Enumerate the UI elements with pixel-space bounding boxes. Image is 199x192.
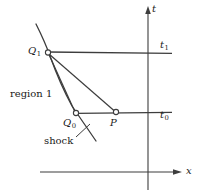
shock-characteristic-diagram: t x t1 t0 Q1 Q0 P region 1 shock <box>0 0 199 192</box>
t-axis-label-text: t <box>152 3 156 14</box>
shock-label-text: shock <box>44 135 73 146</box>
point-q0-label-text: Q <box>63 117 71 128</box>
time-level-t0-label-subscript: 0 <box>165 114 169 122</box>
x-axis-label-text: x <box>186 165 192 176</box>
region-1-label: region 1 <box>10 89 52 99</box>
t-axis-arrowhead <box>145 6 151 14</box>
time-level-t1-label-text: t <box>160 39 164 50</box>
point-q1-label: Q1 <box>28 46 41 56</box>
x-axis-arrowhead <box>173 169 182 175</box>
region-1-label-text: region 1 <box>10 88 52 99</box>
point-p-label: P <box>110 118 117 128</box>
point-p-label-text: P <box>110 117 117 128</box>
characteristic-q1-q0 <box>49 54 76 113</box>
point-q1-label-subscript: 1 <box>37 50 41 58</box>
point-q0-label: Q0 <box>63 118 76 128</box>
point-q0-marker <box>73 110 78 115</box>
point-q0-label-subscript: 0 <box>72 122 76 130</box>
shock-label: shock <box>44 136 73 146</box>
time-level-t0-line <box>76 112 172 113</box>
t-axis-label: t <box>152 4 156 14</box>
characteristic-q1-p <box>49 54 115 111</box>
shock-leader-line <box>76 124 90 137</box>
t-axis <box>145 6 151 190</box>
x-axis-label: x <box>186 166 192 176</box>
point-q1-label-text: Q <box>28 45 36 56</box>
time-level-t1-label-subscript: 1 <box>165 44 169 52</box>
x-axis <box>40 169 182 175</box>
time-level-t0-label: t0 <box>160 110 168 120</box>
point-p-marker <box>113 109 118 114</box>
time-level-t1-label: t1 <box>160 40 168 50</box>
time-level-t0-label-text: t <box>160 109 164 120</box>
time-level-t1-line <box>48 52 172 53</box>
point-q1-marker <box>45 50 50 55</box>
